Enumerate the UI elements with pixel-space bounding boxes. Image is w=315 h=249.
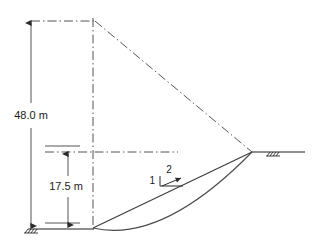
construction-lines-group [31, 18, 252, 231]
slope-ratio-hypotenuse [162, 178, 181, 186]
slope-face-line [93, 152, 252, 228]
slope-ratio-vertical-label: 1 [149, 175, 155, 186]
slope-stability-diagram: 48.0 m 17.5 m 1 2 [0, 0, 315, 249]
lower-height-dimension: 17.5 m [45, 146, 83, 225]
slope-ratio-triangle [160, 176, 183, 186]
diagonal-construction-line [95, 21, 252, 152]
total-height-dimension: 48.0 m [14, 23, 48, 226]
slope-ratio-indicator: 1 2 [149, 164, 183, 186]
total-height-label: 48.0 m [14, 109, 48, 121]
lower-height-label: 17.5 m [49, 180, 83, 192]
slope-body-group [93, 152, 252, 230]
slope-figure-canvas: 48.0 m 17.5 m 1 2 [0, 0, 315, 249]
slope-ratio-horizontal-label: 2 [166, 164, 172, 175]
